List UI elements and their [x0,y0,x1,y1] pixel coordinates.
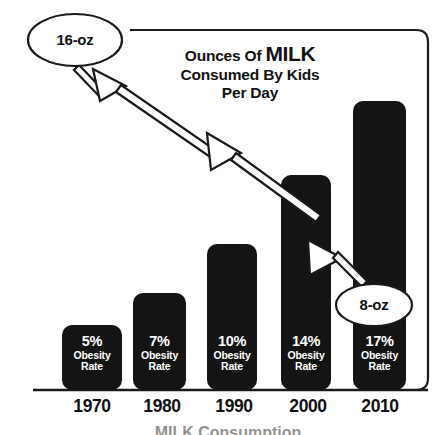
bar-1970 [62,325,122,390]
title-line-2: Consumed By Kids [150,66,350,84]
title-line-1: Ounces Of MILK [150,42,350,66]
title-line-1-prefix: Ounces Of [185,47,266,64]
axis-year-1990: 1990 [200,396,268,417]
bar-1990 [207,244,257,390]
bar-2010 [353,101,406,390]
milk-obesity-infographic: Ounces Of MILK Consumed By Kids Per Day … [0,0,447,435]
axis-year-1970: 1970 [58,396,126,417]
axis-year-2000: 2000 [274,396,342,417]
bar-1980 [133,293,186,390]
footer-clipped-text: MILK Consumption [108,424,348,435]
title-line-3: Per Day [150,84,350,102]
title-emphasis-milk: MILK [265,42,315,65]
callout-16-oz-label: 16-oz [28,31,122,48]
axis-year-2010: 2010 [346,396,414,417]
axis-year-1980: 1980 [128,396,196,417]
chart-title: Ounces Of MILK Consumed By Kids Per Day [150,42,350,102]
callout-8-oz-label: 8-oz [336,296,412,313]
